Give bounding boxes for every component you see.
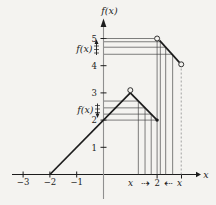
function-graph: xf(x)−3−2−112345f(x)f(x)x⇢2⇠x bbox=[0, 0, 216, 205]
dashed-right-arrow-icon: ⇢ bbox=[141, 177, 150, 189]
x-tick-label: −2 bbox=[44, 177, 57, 187]
fx-upper-label: f(x) bbox=[75, 43, 93, 54]
y-tick-label: 1 bbox=[92, 143, 97, 153]
left-branch-falling bbox=[130, 93, 157, 120]
y-tick-label: 2 bbox=[92, 115, 97, 125]
y-tick-label: 4 bbox=[92, 61, 97, 71]
open-circle-right-end bbox=[179, 62, 184, 67]
open-circle-apex bbox=[128, 88, 133, 93]
dashed-left-arrow-icon: ⇠ bbox=[164, 177, 173, 189]
x-approach-center-label: 2 bbox=[154, 178, 159, 188]
fx-lower-label: f(x) bbox=[76, 104, 94, 115]
open-circle-left-limit bbox=[155, 36, 160, 41]
figure: xf(x)−3−2−112345f(x)f(x)x⇢2⇠x bbox=[0, 0, 216, 205]
x-tick-label: −3 bbox=[17, 177, 30, 187]
y-tick-label: 3 bbox=[92, 88, 97, 98]
x-approach-right-label: x bbox=[177, 178, 182, 188]
x-tick-label: −1 bbox=[70, 177, 83, 187]
solid-dot-f-of-2 bbox=[155, 118, 158, 121]
y-axis-label: f(x) bbox=[100, 5, 118, 16]
right-branch bbox=[160, 40, 180, 62]
x-axis-arrowhead bbox=[196, 172, 201, 178]
y-axis-arrowhead bbox=[101, 19, 107, 28]
x-approach-left-label: x bbox=[128, 178, 133, 188]
x-axis-label: x bbox=[203, 169, 209, 180]
